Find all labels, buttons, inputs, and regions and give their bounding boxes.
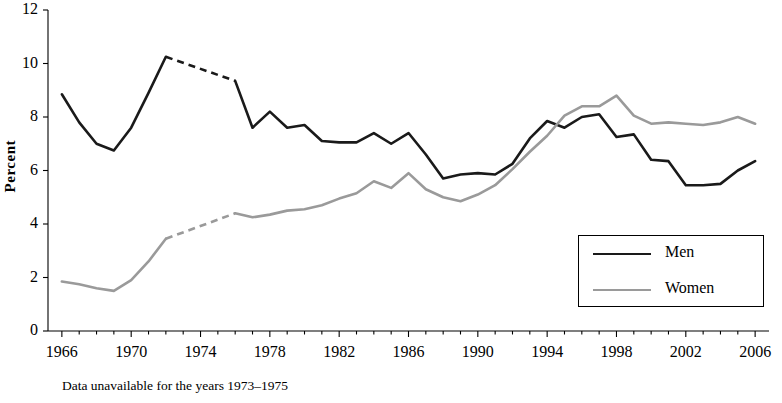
x-tick-label: 1990 [455, 343, 501, 361]
x-tick-label: 1986 [386, 343, 432, 361]
x-tick-label: 1982 [316, 343, 362, 361]
x-tick-label: 1970 [108, 343, 154, 361]
y-tick-label: 8 [12, 107, 38, 125]
legend-label-men: Men [665, 243, 694, 261]
x-tick-label: 1966 [39, 343, 85, 361]
legend-swatch-women [593, 289, 651, 291]
legend-item-men: Men [579, 236, 765, 272]
x-tick-label: 2002 [663, 343, 709, 361]
y-tick-label: 0 [12, 321, 38, 339]
y-tick-label: 12 [12, 0, 38, 18]
chart-container: Percent 024681012 1966197019741978198219… [0, 0, 782, 403]
y-tick-label: 10 [12, 54, 38, 72]
x-tick-label: 1998 [593, 343, 639, 361]
x-tick-label: 1978 [247, 343, 293, 361]
x-tick-label: 1994 [524, 343, 570, 361]
legend-item-women: Women [579, 272, 765, 308]
y-tick-label: 2 [12, 268, 38, 286]
y-tick-label: 6 [12, 161, 38, 179]
x-tick-label: 2006 [732, 343, 778, 361]
x-tick-label: 1974 [178, 343, 224, 361]
y-tick-label: 4 [12, 214, 38, 232]
legend-swatch-men [593, 253, 651, 255]
chart-footnote: Data unavailable for the years 1973–1975 [62, 378, 288, 394]
legend-label-women: Women [665, 279, 714, 297]
chart-legend: Men Women [578, 235, 764, 307]
